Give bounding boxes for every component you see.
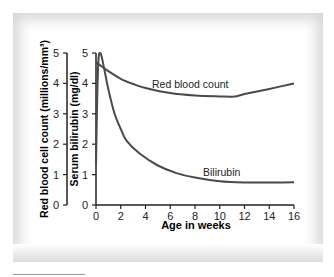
y-tick-label: 5 [82, 47, 88, 59]
bilirubin-series-label: Bilirubin [203, 166, 241, 178]
bilirubin-series-line [96, 53, 294, 183]
rbc-axis-title: Red blood cell count (millions/mm³) [38, 40, 50, 218]
x-tick-label: 16 [288, 210, 300, 222]
x-tick-label: 14 [263, 210, 275, 222]
bilirubin-axis-title: Serum bilirubin (mg/dl) [68, 72, 80, 187]
rbc-series-label: Red blood count [152, 78, 229, 90]
y-tick-label: 4 [53, 77, 59, 89]
y-tick-label: 2 [82, 138, 88, 150]
chart-canvas: 012345 012345 0246810121416 Red blood co… [0, 0, 334, 277]
y-tick-label: 3 [82, 108, 88, 120]
x-tick-label: 12 [238, 210, 250, 222]
x-axis-title: Age in weeks [161, 219, 231, 231]
x-tick-label: 4 [142, 210, 148, 222]
y-tick-label: 2 [53, 138, 59, 150]
caption-rule [13, 274, 85, 275]
y-tick-label: 1 [53, 169, 59, 181]
y-tick-label: 0 [82, 199, 88, 211]
rbc-y-axis: 012345 [53, 47, 67, 211]
y-tick-label: 0 [53, 199, 59, 211]
y-tick-label: 3 [53, 108, 59, 120]
y-tick-label: 1 [82, 169, 88, 181]
y-tick-label: 4 [82, 77, 88, 89]
bilirubin-y-axis: 012345 [82, 47, 96, 211]
x-tick-label: 2 [118, 210, 124, 222]
y-tick-label: 5 [53, 47, 59, 59]
x-tick-label: 0 [93, 210, 99, 222]
